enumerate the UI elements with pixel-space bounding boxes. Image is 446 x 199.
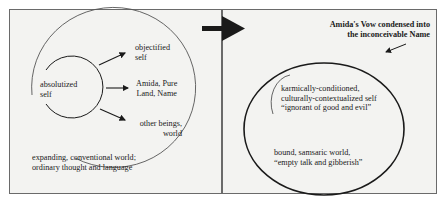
callout-arrow [386, 44, 406, 52]
arrow-other-beings [100, 109, 125, 120]
samsaric-world-label: bound, samsaric world,“empty talk and gi… [274, 148, 362, 167]
callout-label: Amida's Vow condensed intothe inconceiva… [310, 20, 430, 39]
karmic-self-label: karmically-conditioned,culturally-contex… [281, 84, 377, 113]
transition-arrow-icon [202, 16, 245, 41]
objectified-self-label: objectifiedself [135, 43, 170, 62]
other-beings-label: other beings,world [138, 119, 182, 138]
absolutized-self-label: absolutizedself [40, 80, 77, 99]
name-circle [244, 63, 404, 195]
arrow-objectified-self [99, 53, 125, 65]
amida-label: Amida, PureLand, Name [136, 79, 177, 98]
conventional-world-label: expanding, conventional world;ordinary t… [32, 153, 136, 172]
